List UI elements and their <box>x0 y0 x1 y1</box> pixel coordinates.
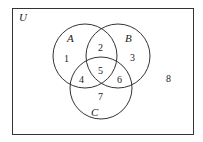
set-a-label: A <box>66 32 74 44</box>
venn-diagram: U A B C 1 2 3 4 5 6 7 8 <box>0 0 203 142</box>
universe-label: U <box>19 11 28 23</box>
set-a-circle <box>53 24 117 88</box>
set-b-label: B <box>125 32 132 44</box>
region-4: 4 <box>79 74 84 85</box>
region-8: 8 <box>166 73 171 84</box>
region-6: 6 <box>117 74 122 85</box>
region-3: 3 <box>130 52 135 63</box>
region-7: 7 <box>98 91 103 102</box>
region-2: 2 <box>98 42 103 53</box>
set-c-label: C <box>91 106 99 118</box>
region-5: 5 <box>98 65 103 76</box>
region-1: 1 <box>64 53 69 64</box>
